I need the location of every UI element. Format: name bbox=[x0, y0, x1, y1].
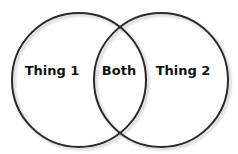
circle-thing-2 bbox=[94, 13, 228, 147]
label-thing-1: Thing 1 bbox=[25, 63, 80, 78]
label-thing-2: Thing 2 bbox=[156, 63, 211, 78]
label-both: Both bbox=[102, 63, 136, 78]
venn-diagram: Thing 1 Both Thing 2 bbox=[0, 0, 238, 154]
circle-thing-1 bbox=[12, 13, 146, 147]
